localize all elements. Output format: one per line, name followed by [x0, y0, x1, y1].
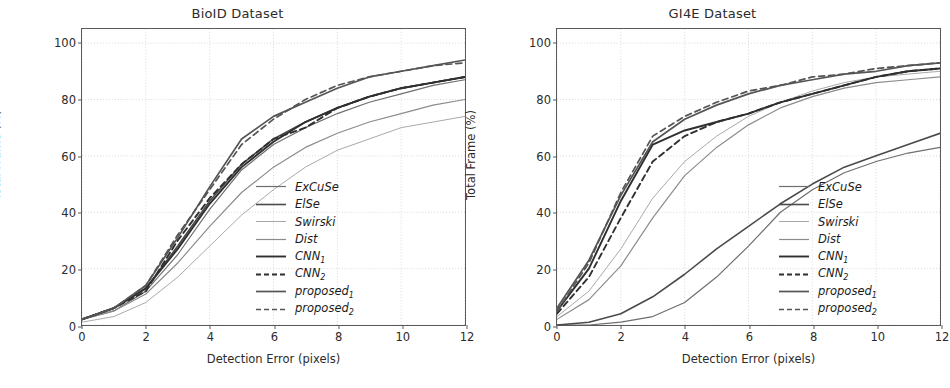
x-tick-label: 2: [617, 330, 624, 344]
chart-title-right: GI4E Dataset: [475, 6, 950, 21]
series-line-excuse: [557, 147, 940, 325]
y-tick-label: 40: [61, 206, 76, 220]
y-axis-label-right: Total Frame (%): [464, 75, 478, 235]
y-tick-label: 80: [61, 93, 76, 107]
legend-right: ExCuSeElSeSwirskiDistCNN1CNN2proposed1pr…: [779, 178, 877, 318]
figure-root: BioID Dataset Total Frame (%) 0204060801…: [0, 0, 950, 388]
x-tick-label: 4: [682, 330, 689, 344]
legend-item-swirski[interactable]: Swirski: [779, 213, 877, 231]
legend-item-label: ExCuSe: [295, 180, 339, 194]
legend-line-swatch: [779, 181, 809, 192]
legend-line-swatch: [256, 251, 286, 262]
x-tick-mark: [338, 325, 339, 329]
x-tick-label: 4: [207, 330, 214, 344]
y-tick-mark: [553, 43, 557, 44]
x-tick-mark: [146, 325, 147, 329]
legend-line-swatch: [779, 199, 809, 210]
x-tick-mark: [942, 325, 943, 329]
x-tick-label: 12: [935, 330, 950, 344]
chart-bioid: BioID Dataset Total Frame (%) 0204060801…: [0, 0, 475, 388]
y-tick-mark: [78, 99, 82, 100]
legend-item-dist[interactable]: Dist: [779, 231, 877, 249]
x-tick-label: 12: [460, 330, 475, 344]
legend-item-else[interactable]: ElSe: [256, 196, 354, 214]
y-tick-label: 100: [529, 36, 551, 50]
x-tick-mark: [813, 325, 814, 329]
x-tick-mark: [210, 325, 211, 329]
y-tick-mark: [78, 43, 82, 44]
legend-item-label: Swirski: [295, 215, 335, 229]
legend-line-swatch: [256, 286, 286, 297]
legend-line-swatch: [256, 269, 286, 280]
x-tick-mark: [82, 325, 83, 329]
y-tick-label: 100: [54, 36, 76, 50]
y-tick-mark: [553, 213, 557, 214]
legend-item-cnn1[interactable]: CNN1: [256, 248, 354, 266]
x-tick-mark: [685, 325, 686, 329]
legend-item-cnn1[interactable]: CNN1: [779, 248, 877, 266]
legend-item-else[interactable]: ElSe: [779, 196, 877, 214]
x-axis-label-right: Detection Error (pixels): [556, 352, 941, 366]
legend-line-swatch: [256, 216, 286, 227]
x-tick-mark: [621, 325, 622, 329]
x-tick-label: 10: [396, 330, 411, 344]
plot-lines-right: [557, 29, 940, 325]
y-tick-mark: [553, 270, 557, 271]
legend-item-label: proposed1: [295, 284, 354, 300]
legend-line-swatch: [779, 216, 809, 227]
legend-line-swatch: [256, 199, 286, 210]
legend-item-dist[interactable]: Dist: [256, 231, 354, 249]
legend-left: ExCuSeElSeSwirskiDistCNN1CNN2proposed1pr…: [256, 178, 354, 318]
legend-item-label: Dist: [295, 232, 318, 246]
chart-title-left: BioID Dataset: [0, 6, 475, 21]
x-tick-label: 8: [335, 330, 342, 344]
y-tick-mark: [78, 270, 82, 271]
legend-line-swatch: [779, 251, 809, 262]
legend-line-swatch: [256, 234, 286, 245]
legend-item-label: proposed2: [295, 301, 354, 317]
y-tick-label: 60: [536, 150, 551, 164]
legend-item-proposed1[interactable]: proposed1: [256, 283, 354, 301]
x-tick-label: 2: [142, 330, 149, 344]
legend-line-swatch: [779, 286, 809, 297]
y-tick-label: 40: [536, 206, 551, 220]
legend-line-swatch: [256, 181, 286, 192]
x-tick-mark: [402, 325, 403, 329]
legend-line-swatch: [779, 234, 809, 245]
legend-item-label: proposed2: [818, 301, 877, 317]
y-tick-label: 80: [536, 93, 551, 107]
y-tick-mark: [553, 99, 557, 100]
x-tick-label: 10: [871, 330, 886, 344]
legend-item-label: CNN1: [818, 249, 848, 265]
series-line-cnn1: [557, 68, 940, 310]
legend-item-label: ElSe: [295, 197, 320, 211]
legend-item-label: CNN2: [818, 266, 848, 282]
chart-gi4e: GI4E Dataset Total Frame (%) 02040608010…: [475, 0, 950, 388]
legend-item-proposed2[interactable]: proposed2: [779, 301, 877, 319]
legend-item-label: Swirski: [818, 215, 858, 229]
y-tick-label: 60: [61, 150, 76, 164]
legend-item-excuse[interactable]: ExCuSe: [779, 178, 877, 196]
legend-item-proposed1[interactable]: proposed1: [779, 283, 877, 301]
y-tick-label: 0: [69, 320, 76, 334]
y-tick-mark: [553, 156, 557, 157]
x-tick-label: 6: [271, 330, 278, 344]
x-tick-mark: [877, 325, 878, 329]
legend-line-swatch: [256, 304, 286, 315]
legend-item-swirski[interactable]: Swirski: [256, 213, 354, 231]
legend-item-excuse[interactable]: ExCuSe: [256, 178, 354, 196]
y-tick-mark: [78, 213, 82, 214]
x-tick-label: 6: [746, 330, 753, 344]
legend-item-proposed2[interactable]: proposed2: [256, 301, 354, 319]
legend-item-label: Dist: [818, 232, 841, 246]
legend-item-cnn2[interactable]: CNN2: [779, 266, 877, 284]
legend-line-swatch: [779, 304, 809, 315]
y-axis-label-left: Total Frame (%): [0, 75, 3, 235]
y-tick-label: 20: [61, 263, 76, 277]
x-tick-mark: [749, 325, 750, 329]
legend-line-swatch: [779, 269, 809, 280]
legend-item-cnn2[interactable]: CNN2: [256, 266, 354, 284]
x-tick-mark: [274, 325, 275, 329]
y-tick-mark: [78, 156, 82, 157]
legend-item-label: proposed1: [818, 284, 877, 300]
